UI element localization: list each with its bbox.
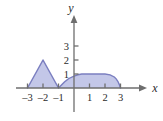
x-tick-label-1: 1 — [87, 92, 92, 103]
y-tick-label-3: 3 — [64, 41, 69, 52]
x-axis-arrow-icon — [139, 85, 147, 92]
x-tick-label--1: –1 — [52, 92, 64, 103]
graph-canvas: –3 –2 –1 1 2 3 1 2 3 y x — [0, 0, 163, 121]
x-tick-label-3: 3 — [118, 92, 123, 103]
x-tick-label--3: –3 — [21, 92, 33, 103]
x-axis-label: x — [151, 81, 158, 95]
graph-figure: –3 –2 –1 1 2 3 1 2 3 y x — [0, 0, 163, 121]
y-axis-arrow-icon — [71, 15, 78, 23]
y-tick-label-1: 1 — [64, 69, 69, 80]
x-tick-label--2: –2 — [37, 92, 49, 103]
y-tick-label-2: 2 — [64, 55, 69, 66]
y-axis-label: y — [67, 1, 74, 15]
y-axis-ticks — [74, 46, 79, 74]
x-tick-label-2: 2 — [102, 92, 107, 103]
